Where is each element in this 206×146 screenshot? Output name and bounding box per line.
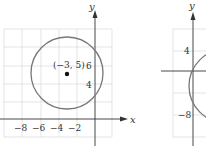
right-y-tick-neg8: −8 xyxy=(178,110,192,120)
x-axis-arrow-icon xyxy=(120,117,128,122)
left-grid xyxy=(4,29,112,137)
x-tick-neg6: −6 xyxy=(32,123,46,133)
y-tick-4: 4 xyxy=(86,80,92,90)
right-y-axis-label: y xyxy=(188,0,195,11)
y-axis-label: y xyxy=(88,1,95,12)
right-circle-curve xyxy=(189,49,206,123)
right-axes xyxy=(161,16,206,146)
y-tick-6: 6 xyxy=(86,61,92,71)
point-label: (−3, 5) xyxy=(53,60,85,70)
x-tick-neg4: −4 xyxy=(50,123,64,133)
center-point xyxy=(65,72,69,76)
right-graph: 4 −8 y xyxy=(161,0,206,146)
x-axis-label: x xyxy=(130,114,136,125)
right-y-axis-arrow-icon xyxy=(191,12,196,20)
x-tick-neg2: −2 xyxy=(68,123,81,133)
x-tick-neg8: −8 xyxy=(14,123,28,133)
right-y-tick-4: 4 xyxy=(184,46,190,56)
graph-figure: (−3, 5) 6 4 −8 −6 −4 −2 y x 4 −8 y xyxy=(0,0,206,146)
left-graph: (−3, 5) 6 4 −8 −6 −4 −2 y x xyxy=(0,1,136,146)
